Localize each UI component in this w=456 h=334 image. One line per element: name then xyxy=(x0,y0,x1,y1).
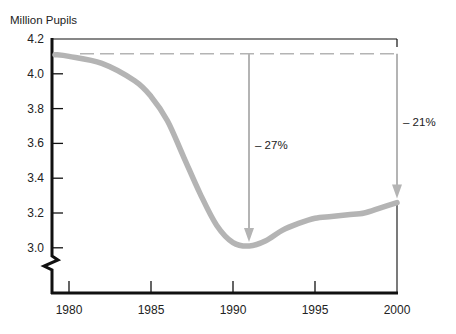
x-tick-label: 1995 xyxy=(302,303,329,317)
x-tick-label: 1980 xyxy=(56,303,83,317)
pupils-line-chart: Million Pupils 4.24.03.83.63.43.23.0 198… xyxy=(0,0,456,334)
y-axis-line xyxy=(44,38,58,294)
pupils-series-line xyxy=(55,55,397,246)
arrow-head-icon xyxy=(392,185,402,199)
y-axis-title: Million Pupils xyxy=(10,14,77,26)
y-tick-label: 3.8 xyxy=(27,102,44,116)
arrow-head-icon xyxy=(244,228,254,242)
x-tick-label: 1990 xyxy=(220,303,247,317)
x-tick-label: 2000 xyxy=(384,303,411,317)
y-tick-label: 3.4 xyxy=(27,171,44,185)
annotation-label: – 21% xyxy=(403,116,436,128)
y-tick-label: 4.0 xyxy=(27,67,44,81)
y-axis-ticks: 4.24.03.83.63.43.23.0 xyxy=(27,32,63,255)
y-tick-label: 3.0 xyxy=(27,241,44,255)
x-tick-label: 1985 xyxy=(138,303,165,317)
y-tick-label: 3.6 xyxy=(27,136,44,150)
x-axis-ticks: 19801985199019952000 xyxy=(56,281,411,317)
y-tick-label: 3.2 xyxy=(27,206,44,220)
y-tick-label: 4.2 xyxy=(27,32,44,46)
annotation-label: – 27% xyxy=(255,139,288,151)
